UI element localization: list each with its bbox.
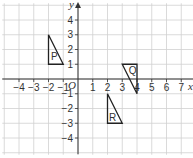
x-tick-label: 3	[119, 82, 125, 93]
y-tick-label: 2	[67, 44, 73, 55]
x-axis-label: x	[187, 80, 193, 92]
y-tick-label: 1	[67, 59, 73, 70]
y-tick-label: −3	[62, 118, 74, 129]
x-tick-label: −4	[13, 82, 25, 93]
y-tick-label: −4	[62, 133, 74, 144]
coordinate-grid-diagram: xyO−4−3−2−112345674321−1−2−3−4 PQR	[0, 0, 193, 158]
x-tick-label: 7	[178, 82, 184, 93]
x-tick-label: 5	[149, 82, 155, 93]
axes	[2, 2, 193, 154]
y-tick-label: 3	[67, 29, 73, 40]
x-tick-label: 6	[164, 82, 170, 93]
triangle-label-q: Q	[129, 65, 137, 76]
y-tick-label: −2	[62, 103, 74, 114]
y-tick-label: −1	[62, 88, 74, 99]
x-tick-label: 1	[90, 82, 96, 93]
triangle-label-r: R	[109, 112, 116, 123]
y-axis-label: y	[68, 0, 74, 10]
x-tick-label: 2	[105, 82, 111, 93]
y-tick-label: 4	[67, 15, 73, 26]
x-tick-label: −3	[28, 82, 40, 93]
tick-labels: xyO−4−3−2−112345674321−1−2−3−4	[13, 0, 193, 144]
triangle-label-p: P	[51, 51, 58, 62]
x-tick-label: −2	[43, 82, 55, 93]
